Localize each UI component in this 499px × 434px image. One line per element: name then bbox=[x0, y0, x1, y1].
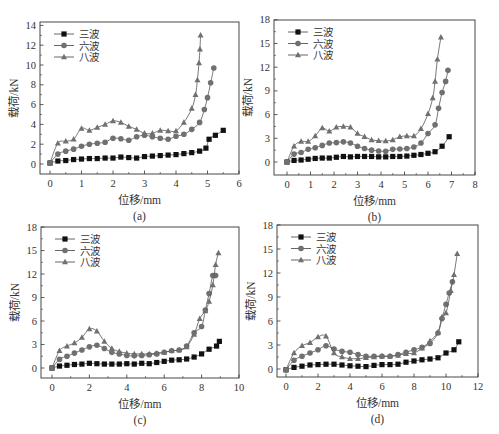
circle-marker bbox=[315, 347, 321, 353]
circle-marker bbox=[432, 122, 438, 128]
x-axis-label: 位移/mm bbox=[353, 194, 396, 207]
square-marker bbox=[327, 155, 332, 160]
triangle-marker bbox=[55, 140, 61, 146]
y-tick-label: 8 bbox=[31, 79, 36, 90]
legend-label: 八波 bbox=[80, 256, 101, 268]
chart-panel-d: 0246810120369121518位移/mm载荷/kN(d)三波六波八波 bbox=[245, 220, 483, 427]
circle-marker bbox=[202, 107, 208, 113]
square-marker bbox=[221, 128, 226, 133]
triangle-marker bbox=[319, 125, 325, 131]
circle-marker bbox=[94, 342, 100, 348]
y-tick-label: 0 bbox=[31, 159, 36, 170]
legend-label: 八波 bbox=[313, 49, 334, 61]
circle-marker bbox=[102, 139, 108, 145]
y-tick-label: 9 bbox=[265, 85, 270, 96]
panel-label: (b) bbox=[368, 211, 382, 224]
circle-marker bbox=[62, 248, 68, 254]
circle-marker bbox=[208, 80, 214, 86]
triangle-marker bbox=[305, 138, 311, 144]
square-marker bbox=[64, 363, 69, 368]
x-tick-label: 2 bbox=[315, 381, 320, 392]
square-marker bbox=[411, 153, 416, 158]
square-marker bbox=[55, 158, 60, 163]
square-marker bbox=[451, 347, 456, 352]
series-line bbox=[287, 70, 448, 162]
x-axis-label: 位移/mm bbox=[118, 193, 161, 206]
square-marker bbox=[142, 154, 147, 159]
square-marker bbox=[150, 153, 155, 158]
square-marker bbox=[355, 154, 360, 159]
legend-label: 八波 bbox=[79, 51, 100, 63]
triangle-marker bbox=[71, 340, 77, 346]
square-marker bbox=[331, 362, 336, 367]
series-line bbox=[52, 253, 218, 368]
square-marker bbox=[291, 365, 296, 370]
triangle-marker bbox=[448, 287, 454, 293]
square-marker bbox=[298, 234, 303, 239]
square-marker bbox=[395, 362, 400, 367]
circle-marker bbox=[445, 68, 451, 74]
x-tick-label: 3 bbox=[355, 179, 360, 190]
square-marker bbox=[315, 362, 320, 367]
circle-marker bbox=[291, 151, 297, 157]
x-tick-label: 12 bbox=[473, 381, 484, 392]
triangle-marker bbox=[432, 78, 438, 84]
y-tick-label: 12 bbox=[26, 40, 37, 51]
square-marker bbox=[181, 151, 186, 156]
square-marker bbox=[404, 153, 409, 158]
legend-label: 六波 bbox=[79, 40, 100, 52]
legend-label: 三波 bbox=[80, 233, 101, 245]
circle-marker bbox=[339, 349, 345, 355]
square-marker bbox=[307, 362, 312, 367]
square-marker bbox=[348, 154, 353, 159]
square-marker bbox=[419, 357, 424, 362]
triangle-marker bbox=[126, 123, 132, 128]
square-marker bbox=[154, 360, 159, 365]
x-tick-label: 1 bbox=[308, 179, 313, 190]
series-2 bbox=[47, 32, 204, 165]
circle-marker bbox=[199, 324, 205, 330]
y-tick-label: 9 bbox=[268, 292, 273, 303]
square-marker bbox=[173, 152, 178, 157]
y-tick-label: 15 bbox=[260, 38, 271, 49]
circle-marker bbox=[307, 350, 313, 356]
circle-marker bbox=[157, 135, 163, 141]
triangle-marker bbox=[102, 121, 108, 127]
square-marker bbox=[57, 363, 62, 368]
square-marker bbox=[147, 361, 152, 366]
x-tick-label: 10 bbox=[234, 382, 245, 393]
circle-marker bbox=[173, 133, 179, 139]
square-marker bbox=[117, 361, 122, 366]
triangle-marker bbox=[315, 334, 321, 340]
triangle-marker bbox=[434, 56, 440, 62]
y-tick-label: 3 bbox=[265, 133, 270, 144]
square-marker bbox=[371, 363, 376, 368]
x-tick-label: 8 bbox=[411, 381, 416, 392]
chart-panel-b: 0123456780369121518位移/mm载荷/kN(b)三波六波八波 bbox=[242, 14, 478, 224]
figure: 012345602468101214位移/mm载荷/kN(a)三波六波八波012… bbox=[0, 0, 499, 434]
chart-panel-a: 012345602468101214位移/mm载荷/kN(a)三波六波八波 bbox=[8, 20, 242, 223]
circle-marker bbox=[299, 353, 305, 359]
triangle-marker bbox=[323, 333, 329, 339]
square-marker bbox=[189, 150, 194, 155]
square-marker bbox=[118, 154, 123, 159]
x-tick-label: 4 bbox=[347, 381, 353, 392]
circle-marker bbox=[110, 135, 116, 141]
triangle-marker bbox=[451, 271, 457, 277]
legend: 三波六波八波 bbox=[288, 26, 334, 61]
circle-marker bbox=[197, 120, 203, 126]
circle-marker bbox=[355, 143, 361, 149]
square-marker bbox=[390, 154, 395, 159]
square-marker bbox=[306, 157, 311, 162]
square-marker bbox=[166, 152, 171, 157]
square-marker bbox=[124, 361, 129, 366]
triangle-marker bbox=[197, 315, 203, 321]
square-marker bbox=[341, 154, 346, 159]
square-marker bbox=[184, 356, 189, 361]
x-tick-label: 8 bbox=[199, 382, 204, 393]
square-marker bbox=[299, 364, 304, 369]
triangle-marker bbox=[454, 251, 460, 257]
y-tick-label: 12 bbox=[27, 269, 38, 280]
legend-label: 八波 bbox=[316, 254, 337, 266]
square-marker bbox=[87, 156, 92, 161]
